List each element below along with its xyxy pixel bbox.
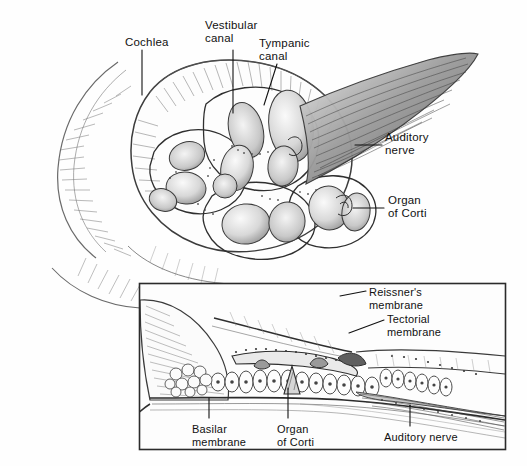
tectorial-leader [349, 320, 384, 333]
label-cochlea: Cochlea [125, 36, 169, 49]
leader-lines [0, 0, 527, 466]
label-auditory-nerve-inset: Auditory nerve [384, 431, 458, 444]
label-basilar-membrane: Basilar membrane [192, 423, 246, 448]
label-reissners-membrane: Reissner's membrane [369, 286, 423, 311]
reissners-leader [340, 291, 366, 296]
label-tectorial-membrane: Tectorial membrane [387, 313, 441, 338]
label-auditory-nerve: Auditory nerve [385, 131, 429, 157]
label-organ-of-corti-inset: Organ of Corti [277, 423, 314, 448]
label-organ-of-corti: Organ of Corti [388, 194, 427, 220]
tympanic-leader [264, 64, 277, 105]
illustration-canvas: Cochlea Vestibular canal Tympanic canal … [0, 0, 527, 466]
label-tympanic-canal: Tympanic canal [259, 37, 310, 63]
label-vestibular-canal: Vestibular canal [205, 19, 258, 45]
